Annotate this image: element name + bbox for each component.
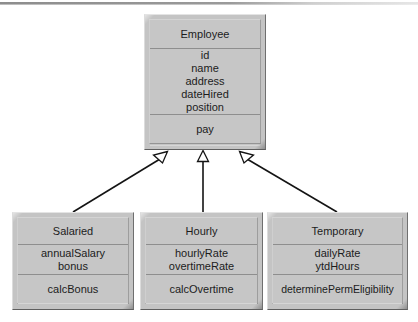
attribute-salaried-annualsalary: annualSalary <box>41 247 105 260</box>
operation-hourly-calcovertime: calcOvertime <box>169 283 233 296</box>
edge-salaried-to-employee <box>73 159 160 212</box>
operation-temporary-determinepermeligibility: determinePermEligibility <box>281 283 394 295</box>
class-name-compartment-temporary: Temporary <box>273 218 402 244</box>
uml-class-diagram: Employee id name address dateHired posit… <box>0 0 418 322</box>
attributes-compartment-salaried: annualSalary bonus <box>18 244 128 274</box>
class-name-employee: Employee <box>181 28 230 41</box>
class-name-temporary: Temporary <box>312 225 364 238</box>
class-name-compartment-hourly: Hourly <box>146 218 257 244</box>
arrowhead-hourly-icon <box>198 151 209 162</box>
operation-employee-pay: pay <box>196 123 214 136</box>
attribute-hourly-hourlyrate: hourlyRate <box>175 247 228 260</box>
attributes-compartment-temporary: dailyRate ytdHours <box>273 244 402 274</box>
edge-temporary-to-employee <box>247 159 337 212</box>
attribute-employee-position: position <box>186 101 224 114</box>
class-name-hourly: Hourly <box>186 225 218 238</box>
class-name-salaried: Salaried <box>53 225 93 238</box>
arrowhead-temporary-icon <box>240 152 254 164</box>
operations-compartment-hourly: calcOvertime <box>146 274 257 303</box>
attribute-employee-datehired: dateHired <box>181 88 229 101</box>
operations-compartment-salaried: calcBonus <box>18 274 128 303</box>
class-box-employee[interactable]: Employee id name address dateHired posit… <box>144 14 266 150</box>
class-name-compartment-salaried: Salaried <box>18 218 128 244</box>
attribute-employee-name: name <box>191 62 219 75</box>
attribute-employee-address: address <box>185 75 224 88</box>
class-box-hourly[interactable]: Hourly hourlyRate overtimeRate calcOvert… <box>140 212 263 310</box>
attribute-temporary-ytdhours: ytdHours <box>315 260 359 273</box>
operations-compartment-employee: pay <box>150 114 260 145</box>
class-box-temporary[interactable]: Temporary dailyRate ytdHours determinePe… <box>267 212 408 310</box>
arrowhead-salaried-icon <box>154 152 168 164</box>
operations-compartment-temporary: determinePermEligibility <box>273 274 402 303</box>
top-divider-rule-shadow <box>0 4 418 5</box>
attribute-employee-id: id <box>201 49 210 62</box>
class-box-salaried[interactable]: Salaried annualSalary bonus calcBonus <box>12 212 134 310</box>
attribute-salaried-bonus: bonus <box>58 260 88 273</box>
attributes-compartment-hourly: hourlyRate overtimeRate <box>146 244 257 274</box>
class-name-compartment-employee: Employee <box>150 20 260 48</box>
operation-salaried-calcbonus: calcBonus <box>48 283 99 296</box>
attribute-hourly-overtimerate: overtimeRate <box>169 260 234 273</box>
attribute-temporary-dailyrate: dailyRate <box>315 247 361 260</box>
attributes-compartment-employee: id name address dateHired position <box>150 48 260 114</box>
